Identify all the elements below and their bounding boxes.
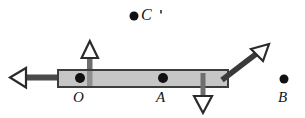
- diagonal-arrow: [222, 44, 269, 80]
- point-dot-b: [280, 75, 289, 84]
- point-label-c: C: [141, 7, 152, 23]
- point-label-b: B: [278, 90, 287, 105]
- down-arrow-head: [194, 96, 212, 113]
- left-arrow-head: [10, 68, 26, 88]
- up-arrow-shaft-over-bar: [87, 71, 93, 86]
- diagonal-arrow-shaft: [222, 51, 260, 80]
- point-label-o: O: [73, 90, 84, 105]
- left-arrow-shaft: [22, 75, 60, 81]
- left-arrow: [10, 68, 60, 88]
- up-arrow-head: [82, 41, 98, 58]
- diagram-canvas: [0, 0, 305, 118]
- c-tick-mark-icon: [160, 10, 162, 14]
- point-label-a: A: [156, 90, 165, 105]
- force-diagram: O A B C: [0, 0, 305, 118]
- point-dot-a: [158, 73, 168, 83]
- point-dot-c: [130, 12, 139, 21]
- point-dot-o: [75, 73, 85, 83]
